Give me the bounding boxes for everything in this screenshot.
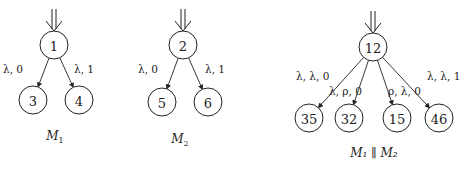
diagram-3: λ, λ, 0λ, ρ, 0ρ, λ, 0λ, λ, 11235321546M₁… [295,11,460,160]
initial-state-node: 2 [169,31,197,59]
initial-state-arrow-icon [46,9,62,31]
svg-text:6: 6 [204,96,212,111]
diagram-caption: M₁ ∥ M₂ [349,146,398,160]
svg-text:4: 4 [75,94,83,109]
state-node: 6 [194,88,222,116]
transition-edge [167,58,178,89]
state-node: 32 [335,104,363,132]
svg-text:46: 46 [431,112,448,127]
initial-state-node: 1 [40,31,68,59]
diagram-1: λ, 0λ, 1134M1 [3,9,94,145]
svg-text:12: 12 [365,41,382,56]
transition-edge [353,60,368,104]
transition-label: λ, λ, 0 [296,70,329,82]
transition-label: ρ, λ, 0 [388,85,421,97]
transition-label: λ, 1 [74,63,94,75]
svg-text:2: 2 [179,39,187,54]
state-node: 4 [65,86,93,114]
transition-label: λ, λ, 1 [427,70,460,82]
transition-label: λ, 0 [3,63,23,75]
state-machine-diagrams: λ, 0λ, 1134M1λ, 0λ, 1256M2λ, λ, 0λ, ρ, 0… [0,0,474,174]
state-node: 3 [19,86,47,114]
diagram-caption: M2 [170,132,188,148]
svg-text:3: 3 [29,94,37,109]
svg-text:32: 32 [341,112,358,127]
state-node: 46 [425,104,453,132]
transition-edge [377,60,392,104]
initial-state-arrow-icon [175,9,191,31]
svg-text:5: 5 [158,96,166,111]
svg-text:1: 1 [50,39,58,54]
diagram-caption: M1 [45,129,63,145]
diagram-canvas: λ, 0λ, 1134M1λ, 0λ, 1256M2λ, λ, 0λ, ρ, 0… [0,0,474,174]
transition-edge [60,58,73,88]
state-node: 5 [148,88,176,116]
initial-state-arrow-icon [365,11,381,33]
state-node: 35 [295,104,323,132]
transition-edge [318,57,363,107]
svg-text:15: 15 [389,112,406,127]
svg-text:35: 35 [301,112,318,127]
transition-edge [38,58,49,87]
transition-label: λ, 0 [138,63,158,75]
state-node: 15 [383,104,411,132]
transition-edge [189,58,203,89]
transition-edge [383,57,430,107]
transition-label: λ, ρ, 0 [329,85,362,97]
initial-state-node: 12 [359,33,387,61]
diagram-2: λ, 0λ, 1256M2 [138,9,225,148]
transition-label: λ, 1 [205,63,225,75]
